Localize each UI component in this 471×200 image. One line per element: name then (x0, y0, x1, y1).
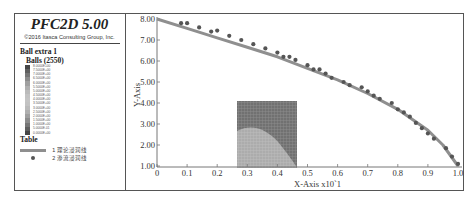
y-tick-label: 3.00 (140, 119, 155, 129)
x-tick-label: 0.6 (332, 168, 343, 178)
y-tick-label: 4.00 (140, 98, 155, 108)
x-tick-label: 0.3 (242, 168, 253, 178)
y-tick-label: 2.00 (140, 140, 155, 150)
seepage-data-point (420, 126, 424, 130)
seepage-data-point (275, 51, 279, 55)
x-tick-label: 1.0 (453, 168, 464, 178)
seepage-data-point (305, 63, 309, 67)
seepage-data-point (185, 21, 189, 25)
seepage-data-point (444, 146, 448, 150)
y-tick-label: 8.00 (140, 14, 155, 24)
y-tick-label: 1.00 (140, 161, 155, 171)
seepage-data-point (456, 162, 460, 166)
seepage-data-point (215, 28, 219, 32)
seepage-data-point (311, 67, 315, 71)
seepage-data-point (329, 76, 333, 80)
seepage-data-point (239, 38, 243, 42)
seepage-data-point (390, 101, 394, 105)
seepage-data-point (287, 55, 291, 59)
x-axis-label: X-Axis x10`1 (294, 179, 341, 189)
x-tick-label: 0.8 (392, 168, 403, 178)
seepage-data-point (197, 25, 201, 29)
seepage-data-point (366, 89, 370, 93)
x-tick-label: 0 (155, 168, 159, 178)
x-tick-label: 0.2 (212, 168, 223, 178)
seepage-data-point (227, 34, 231, 38)
seepage-data-point (348, 83, 352, 87)
seepage-data-point (342, 80, 346, 84)
y-tick-label: 7.00 (140, 35, 155, 45)
seepage-data-point (408, 115, 412, 119)
seepage-data-point (402, 110, 406, 114)
chart-plot-area: 1.002.003.004.005.006.007.008.0000.10.20… (0, 0, 471, 200)
x-tick-label: 0.9 (423, 168, 434, 178)
seepage-data-point (293, 58, 297, 62)
seepage-data-point (432, 137, 436, 141)
seepage-data-point (372, 94, 376, 98)
seepage-data-point (179, 21, 183, 25)
seepage-data-point (263, 46, 267, 50)
seepage-data-point (396, 107, 400, 111)
seepage-data-point (251, 42, 255, 46)
seepage-data-point (414, 121, 418, 125)
seepage-data-point (450, 154, 454, 158)
seepage-data-point (317, 67, 321, 71)
y-tick-label: 6.00 (140, 56, 155, 66)
seepage-data-point (378, 97, 382, 101)
x-tick-label: 0.7 (362, 168, 373, 178)
seepage-data-point (360, 85, 364, 89)
x-tick-label: 0.5 (302, 168, 313, 178)
y-axis-label: Y-Axis (132, 83, 142, 107)
seepage-data-point (281, 55, 285, 59)
seepage-data-point (426, 131, 430, 135)
theoretical-line-series (157, 19, 458, 166)
x-tick-label: 0.1 (182, 168, 193, 178)
x-tick-label: 0.4 (272, 168, 283, 178)
seepage-data-point (323, 72, 327, 76)
seepage-data-point (209, 30, 213, 34)
y-tick-label: 5.00 (140, 77, 155, 87)
